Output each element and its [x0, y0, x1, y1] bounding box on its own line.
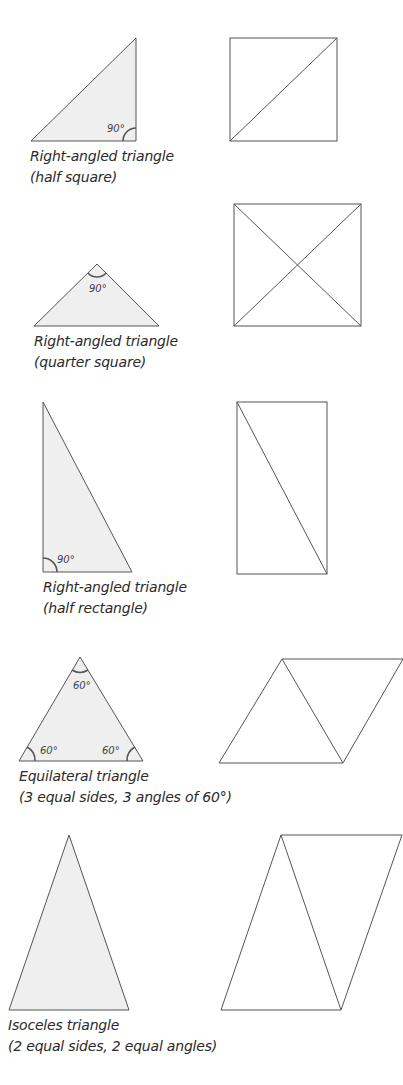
- isoceles-triangle: [9, 835, 129, 1010]
- square-two-diagonals: [234, 204, 361, 326]
- caption-title: Equilateral triangle: [19, 766, 232, 787]
- parallelogram-two-triangles: [221, 835, 402, 1010]
- caption-quarter-square: Right-angled triangle (quarter square): [34, 331, 178, 373]
- caption-subtitle: (half rectangle): [43, 598, 187, 619]
- rhombus-two-triangles: [219, 659, 403, 763]
- half-rectangle-triangle: 90°: [43, 402, 132, 572]
- caption-half-square: Right-angled triangle (half square): [30, 146, 174, 188]
- caption-title: Right-angled triangle: [43, 577, 187, 598]
- caption-title: Right-angled triangle: [30, 146, 174, 167]
- caption-equilateral: Equilateral triangle (3 equal sides, 3 a…: [19, 766, 232, 808]
- angle-label-60-top: 60°: [73, 680, 91, 691]
- half-square-triangle: 90°: [31, 38, 136, 141]
- quarter-square-triangle: 90°: [34, 264, 159, 326]
- caption-subtitle: (3 equal sides, 3 angles of 60°): [19, 787, 232, 808]
- caption-title: Isoceles triangle: [8, 1015, 217, 1036]
- caption-subtitle: (2 equal sides, 2 equal angles): [8, 1036, 217, 1057]
- caption-isoceles: Isoceles triangle (2 equal sides, 2 equa…: [8, 1015, 217, 1057]
- caption-subtitle: (half square): [30, 167, 174, 188]
- caption-title: Right-angled triangle: [34, 331, 178, 352]
- square-one-diagonal: [230, 38, 337, 141]
- angle-label-60-right: 60°: [102, 745, 120, 756]
- angle-label-60-left: 60°: [40, 745, 58, 756]
- angle-label-90: 90°: [107, 123, 125, 134]
- angle-label-90: 90°: [57, 554, 75, 565]
- equilateral-triangle: 60° 60° 60°: [19, 657, 143, 761]
- rectangle-one-diagonal: [237, 402, 327, 574]
- angle-label-90: 90°: [89, 283, 107, 294]
- caption-subtitle: (quarter square): [34, 352, 178, 373]
- caption-half-rectangle: Right-angled triangle (half rectangle): [43, 577, 187, 619]
